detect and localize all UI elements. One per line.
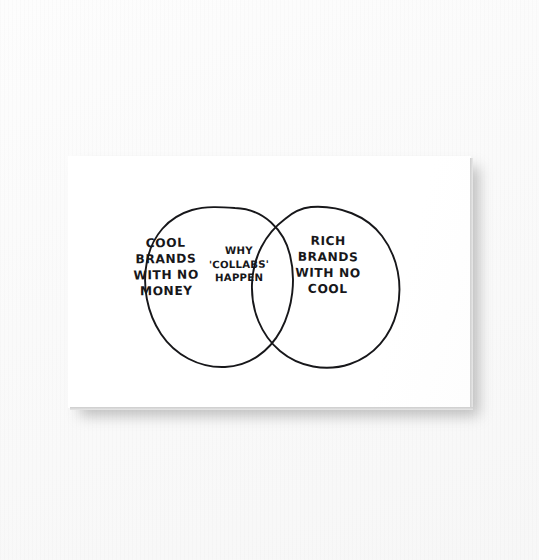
paper-card: COOL BRANDS WITH NO MONEY WHY 'COLLABS' …: [68, 156, 471, 408]
venn-label-right: RICH BRANDS WITH NO COOL: [272, 234, 385, 298]
scene-stage: COOL BRANDS WITH NO MONEY WHY 'COLLABS' …: [0, 0, 539, 560]
venn-label-left: COOL BRANDS WITH NO MONEY: [114, 235, 219, 300]
venn-label-intersection: WHY 'COLLABS' HAPPEN: [205, 244, 273, 285]
